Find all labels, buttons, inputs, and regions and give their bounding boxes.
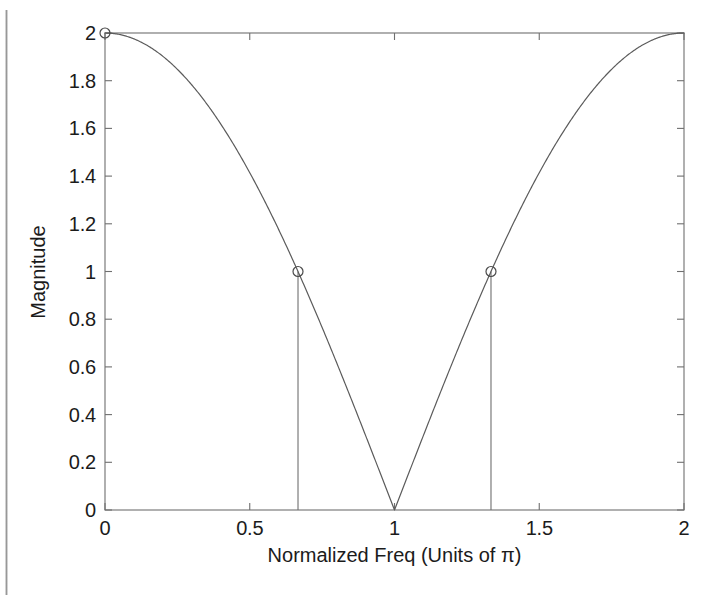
x-tick-label: 2 [679,517,690,540]
y-tick-label: 0.2 [69,451,96,474]
y-axis-ticks [105,33,684,510]
y-tick-label: 0.8 [69,308,96,331]
x-tick-label: 0 [100,517,111,540]
y-tick-label: 0.4 [69,403,96,426]
x-axis-label: Normalized Freq (Units of π) [268,544,522,567]
x-tick-label: 1.5 [526,517,553,540]
magnitude-response-plot [0,0,724,595]
x-axis-ticks [105,33,684,510]
y-tick-label: 1.8 [69,69,96,92]
y-tick-label: 0.6 [69,355,96,378]
magnitude-curve [105,33,684,510]
y-tick-label: 2 [85,22,96,45]
data-point-markers [100,28,496,277]
y-axis-label: Magnitude [27,225,50,318]
y-tick-label: 1.2 [69,212,96,235]
x-tick-label: 1 [389,517,400,540]
stem-lines [298,272,491,511]
y-tick-label: 0 [85,499,96,522]
y-tick-label: 1.4 [69,165,96,188]
x-tick-label: 0.5 [236,517,263,540]
y-tick-label: 1.6 [69,117,96,140]
y-tick-label: 1 [85,260,96,283]
axes-box [105,33,684,510]
plot-frame [105,33,684,510]
figure-canvas: 00.20.40.60.811.21.41.61.82 00.511.52 No… [0,0,724,595]
